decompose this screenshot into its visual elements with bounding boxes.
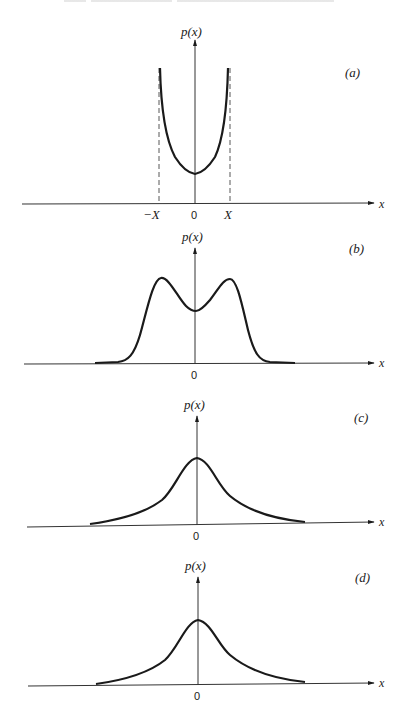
x-axis-label: x xyxy=(378,515,385,529)
panel-label: (a) xyxy=(345,65,360,80)
tick-neg-x: −X xyxy=(143,207,161,222)
panel-label: (d) xyxy=(355,570,370,585)
figure: p(x) x (a) −X 0 X p(x) x (b) 0 p(x) x (c… xyxy=(0,0,405,712)
panel-label: (b) xyxy=(349,241,364,256)
tick-zero: 0 xyxy=(194,690,200,702)
panel-label: (c) xyxy=(354,410,368,425)
x-axis xyxy=(28,683,374,686)
tick-zero: 0 xyxy=(191,369,197,381)
y-axis-label: p(x) xyxy=(180,24,202,39)
tick-zero: 0 xyxy=(193,530,199,542)
tick-zero: 0 xyxy=(191,209,197,221)
x-axis-label: x xyxy=(378,197,385,211)
x-axis xyxy=(24,363,374,364)
x-axis-label: x xyxy=(378,356,385,370)
x-axis xyxy=(22,203,374,204)
panel-a: p(x) x (a) −X 0 X xyxy=(22,24,385,222)
y-axis-label: p(x) xyxy=(181,229,203,244)
x-axis xyxy=(27,522,374,527)
tick-pos-x: X xyxy=(223,207,233,222)
panel-b: p(x) x (b) 0 xyxy=(24,229,385,381)
panel-c: p(x) x (c) 0 xyxy=(27,397,385,542)
panel-d: p(x) x (d) 0 xyxy=(28,558,385,702)
y-axis-label: p(x) xyxy=(183,397,205,412)
y-axis-label: p(x) xyxy=(184,558,206,573)
density-curve xyxy=(160,68,228,174)
x-axis-label: x xyxy=(378,676,385,690)
density-curve xyxy=(96,620,305,684)
